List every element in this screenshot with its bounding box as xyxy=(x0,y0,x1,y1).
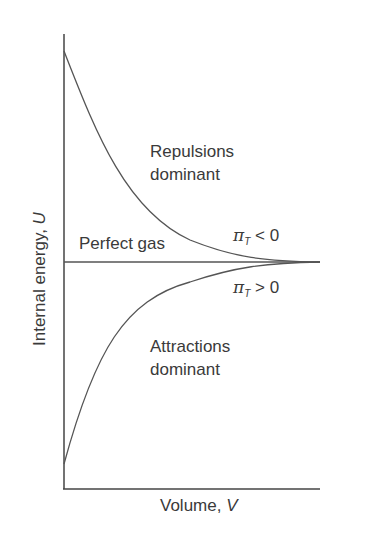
repulsions-label: Repulsions dominant xyxy=(150,142,234,185)
pi-symbol: π xyxy=(233,225,244,245)
diagram-canvas xyxy=(0,0,392,544)
pi-negative-label: πT < 0 xyxy=(233,225,279,248)
x-axis-text: Volume, xyxy=(160,496,226,515)
repulsions-line2: dominant xyxy=(150,165,234,185)
x-axis-variable: V xyxy=(226,496,237,515)
pi-symbol: π xyxy=(233,277,244,297)
x-axis-label: Volume, V xyxy=(160,496,238,516)
pi-subscript: T xyxy=(244,236,250,247)
y-axis-text: Internal energy, xyxy=(30,224,49,346)
pi-subscript: T xyxy=(244,288,250,299)
y-axis-label: Internal energy, U xyxy=(30,212,50,346)
attractions-line2: dominant xyxy=(150,360,230,380)
pi-gt-zero: > 0 xyxy=(250,278,279,297)
attractions-line1: Attractions xyxy=(150,337,230,357)
pi-positive-label: πT > 0 xyxy=(233,277,279,300)
y-axis-variable: U xyxy=(30,212,49,224)
pi-lt-zero: < 0 xyxy=(250,226,279,245)
repulsions-line1: Repulsions xyxy=(150,142,234,162)
attractions-label: Attractions dominant xyxy=(150,337,230,380)
perfect-gas-label: Perfect gas xyxy=(79,234,165,254)
